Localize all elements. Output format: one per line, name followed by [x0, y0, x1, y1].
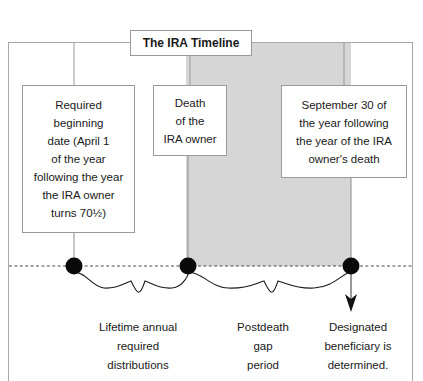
caption-lifetime-distributions: Lifetime annual required distributions	[72, 318, 204, 375]
figure-title: The IRA Timeline	[143, 34, 240, 52]
event-box-death-of-ira-owner: Death of the IRA owner	[153, 85, 227, 156]
event-box-line: the year following	[299, 114, 389, 132]
event-box-line: IRA owner	[163, 130, 216, 148]
marker-september-30-date	[343, 258, 360, 275]
event-box-line: of the	[176, 112, 205, 130]
event-box-line: following the year	[34, 168, 124, 186]
event-box-line: beginning	[54, 114, 104, 132]
caption-line: determined.	[306, 356, 410, 375]
event-box-line: the year of the IRA	[296, 132, 392, 150]
caption-line: period	[222, 356, 304, 375]
event-box-line: the IRA owner	[42, 186, 114, 204]
caption-line: Postdeath	[222, 318, 304, 337]
event-box-line: Death	[175, 94, 206, 112]
event-box-line: September 30 of	[301, 96, 386, 114]
caption-line: Lifetime annual	[72, 318, 204, 337]
event-box-line: turns 70½)	[51, 204, 106, 222]
caption-postdeath-gap-period: Postdeath gap period	[222, 318, 304, 375]
marker-required-beginning-date	[66, 258, 83, 275]
marker-death-of-ira-owner	[180, 258, 197, 275]
event-box-line: Required	[55, 96, 102, 114]
event-box-required-beginning-date: Required beginning date (April 1 of the …	[22, 85, 135, 233]
caption-line: beneficiary is	[306, 337, 410, 356]
caption-line: Designated	[306, 318, 410, 337]
event-box-line: owner's death	[308, 150, 379, 168]
figure-title-box: The IRA Timeline	[130, 30, 252, 56]
caption-line: distributions	[72, 356, 204, 375]
event-box-line: date (April 1	[47, 132, 109, 150]
brace-lifetime-distributions	[74, 272, 188, 292]
event-box-september-30-date: September 30 of the year following the y…	[281, 85, 407, 178]
ira-timeline-figure: The IRA Timeline Required beginning date…	[0, 0, 423, 381]
event-box-line: of the year	[51, 150, 105, 168]
caption-line: required	[72, 337, 204, 356]
brace-postdeath-gap	[188, 272, 351, 292]
caption-line: gap	[222, 337, 304, 356]
caption-designated-beneficiary: Designated beneficiary is determined.	[306, 318, 410, 375]
